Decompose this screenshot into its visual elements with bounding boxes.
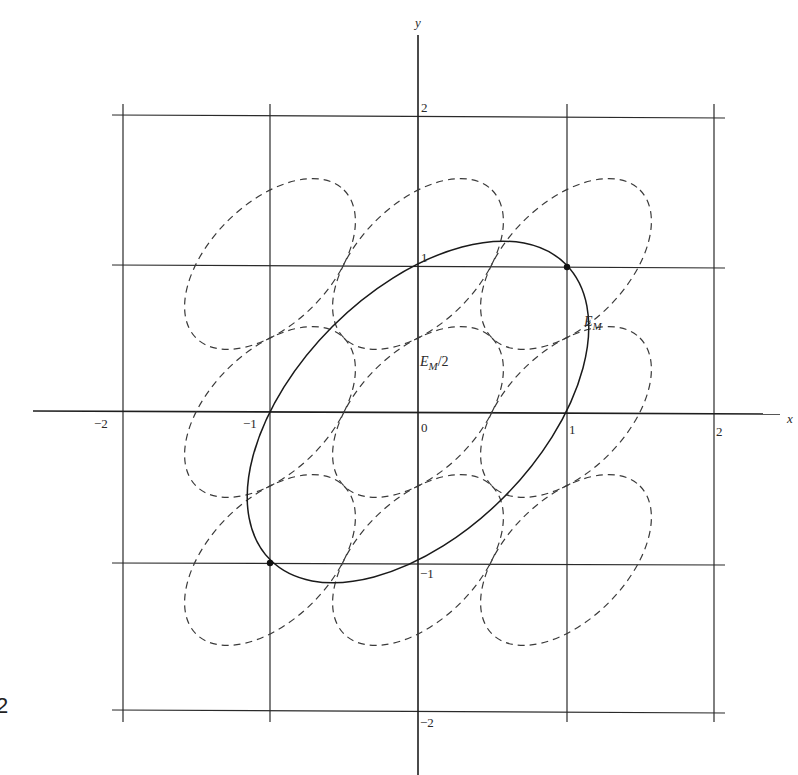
y-tick-minus-2: −2 xyxy=(420,715,434,730)
y-tick-1: 1 xyxy=(421,250,428,265)
label-em-main: E xyxy=(583,314,593,329)
x-tick-0: 0 xyxy=(421,420,428,435)
label-em-half: EM/2 xyxy=(419,354,449,372)
x-axis xyxy=(33,411,780,414)
y-tick-minus-1: −1 xyxy=(420,566,434,581)
lattice-ellipse-diagram: y x −2 −1 0 1 2 2 1 −1 −2 EM EM/2 2 xyxy=(0,0,798,775)
label-em-half-main: E xyxy=(419,354,429,369)
x-tick-1: 1 xyxy=(569,422,576,437)
dashed-ellipse xyxy=(449,443,682,676)
point-1-1 xyxy=(564,264,570,270)
point-minus1-minus1 xyxy=(267,560,273,566)
x-tick-minus-2: −2 xyxy=(94,416,108,431)
x-tick-2: 2 xyxy=(716,424,723,439)
x-axis-label: x xyxy=(786,411,793,426)
label-em: EM xyxy=(583,314,603,332)
y-tick-2: 2 xyxy=(421,100,428,115)
x-tick-minus-1: −1 xyxy=(243,416,257,431)
label-em-sub: M xyxy=(592,320,603,332)
label-em-half-suffix: /2 xyxy=(438,354,449,369)
y-axis-label: y xyxy=(413,15,421,30)
page-number-fragment: 2 xyxy=(0,693,8,718)
